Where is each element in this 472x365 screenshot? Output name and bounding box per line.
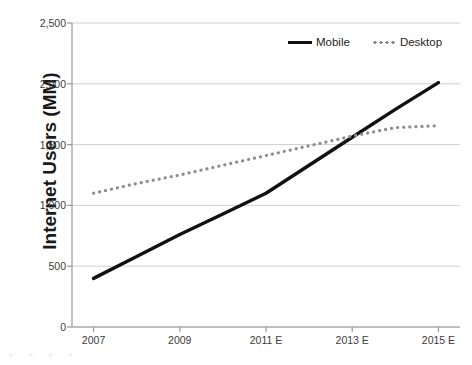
legend-label-desktop: Desktop	[400, 36, 442, 48]
chart-container: Internet Users (MM) 05001,0001,5002,0002…	[0, 0, 472, 365]
legend-entry-desktop: Desktop	[372, 36, 442, 48]
chart-legend: Mobile Desktop	[288, 36, 442, 48]
legend-label-mobile: Mobile	[316, 36, 350, 48]
series-lines	[94, 83, 439, 279]
dotted-line-icon	[372, 41, 396, 44]
scan-artifact: ● ● ● ●	[8, 350, 79, 360]
series-line-mobile	[94, 83, 439, 279]
axis-lines	[72, 23, 460, 327]
tick-marks	[67, 23, 438, 332]
plot-area	[0, 0, 472, 365]
series-line-desktop	[94, 126, 439, 193]
solid-line-icon	[288, 41, 312, 44]
legend-entry-mobile: Mobile	[288, 36, 350, 48]
gridlines	[72, 23, 460, 327]
